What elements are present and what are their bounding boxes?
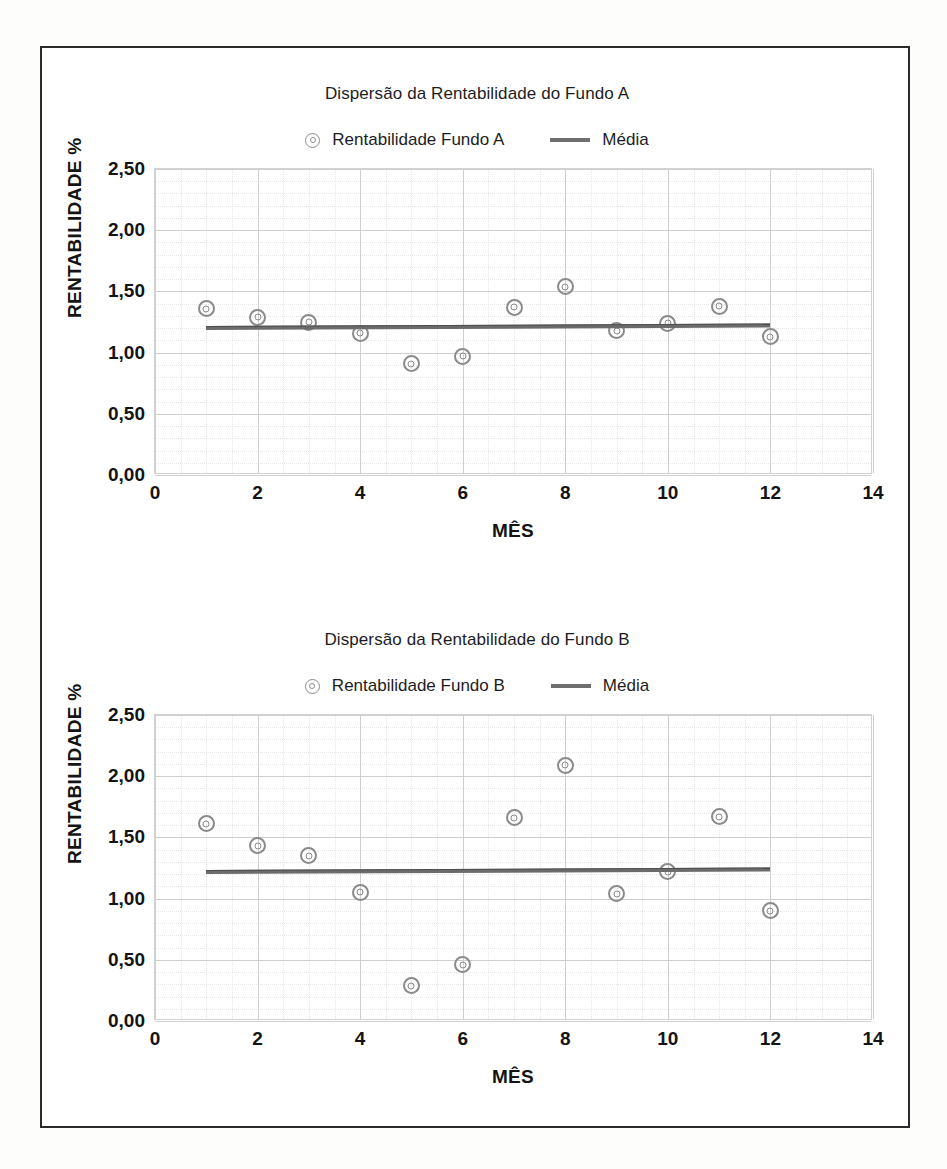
data-point-marker	[711, 808, 728, 825]
gridline-horizontal	[155, 414, 871, 415]
gridline-vertical	[565, 169, 566, 473]
gridline-vertical-minor	[822, 169, 823, 473]
x-tick-label: 4	[355, 482, 366, 504]
gridline-vertical-minor	[745, 169, 746, 473]
figure-fundo-a: Dispersão da Rentabilidade do Fundo A Re…	[42, 48, 912, 558]
legend-entry-rentabilidade-a: Rentabilidade Fundo A	[305, 130, 504, 150]
y-axis-label-b: RENTABILIDADE %	[64, 684, 86, 864]
x-tick-label: 12	[760, 1028, 781, 1050]
line-swatch-icon	[551, 684, 591, 688]
gridline-horizontal	[155, 353, 871, 354]
legend-label-rentabilidade-b: Rentabilidade Fundo B	[332, 676, 505, 696]
gridline-horizontal-minor	[155, 862, 871, 863]
x-tick-label: 0	[150, 482, 161, 504]
chart-legend-a: Rentabilidade Fundo A Média	[42, 130, 912, 150]
data-point-marker	[352, 884, 369, 901]
gridline-horizontal-minor	[155, 1009, 871, 1010]
gridline-horizontal-minor	[155, 451, 871, 452]
gridline-horizontal-minor	[155, 389, 871, 390]
gridline-horizontal-minor	[155, 181, 871, 182]
gridline-vertical-minor	[232, 715, 233, 1019]
y-tick-label: 1,50	[108, 280, 145, 302]
gridline-horizontal-minor	[155, 193, 871, 194]
gridline-vertical	[873, 715, 874, 1019]
gridline-vertical-minor	[591, 715, 592, 1019]
gridline-vertical-minor	[283, 169, 284, 473]
y-axis-label-a: RENTABILIDADE %	[64, 138, 86, 318]
chart-title-a: Dispersão da Rentabilidade do Fundo A	[42, 84, 912, 104]
plot-wrap-b: RENTABILIDADE % 0,000,501,001,502,002,50…	[42, 714, 912, 1104]
legend-label-media-a: Média	[602, 130, 648, 150]
x-tick-label: 10	[657, 482, 678, 504]
gridline-vertical-minor	[514, 169, 515, 473]
gridline-horizontal	[155, 291, 871, 292]
plot-area-a: 0,000,501,001,502,002,5002468101214	[154, 168, 872, 474]
gridline-horizontal-minor	[155, 874, 871, 875]
y-tick-label: 2,00	[108, 219, 145, 241]
gridline-vertical-minor	[591, 169, 592, 473]
gridline-horizontal	[155, 715, 871, 716]
data-point-marker	[403, 977, 420, 994]
circle-marker-icon	[305, 679, 320, 694]
legend-label-media-b: Média	[603, 676, 649, 696]
x-tick-label: 2	[252, 1028, 263, 1050]
x-tick-label: 12	[760, 482, 781, 504]
data-point-marker	[557, 278, 574, 295]
gridline-horizontal-minor	[155, 242, 871, 243]
plot-area-b: 0,000,501,001,502,002,5002468101214	[154, 714, 872, 1020]
gridline-horizontal	[155, 899, 871, 900]
gridline-horizontal-minor	[155, 739, 871, 740]
gridline-horizontal-minor	[155, 377, 871, 378]
gridline-horizontal-minor	[155, 463, 871, 464]
gridline-vertical-minor	[488, 715, 489, 1019]
gridline-vertical-minor	[335, 169, 336, 473]
gridline-vertical-minor	[642, 169, 643, 473]
y-tick-label: 0,50	[108, 403, 145, 425]
data-point-marker	[454, 348, 471, 365]
gridline-vertical-minor	[232, 169, 233, 473]
gridline-horizontal	[155, 475, 871, 476]
legend-entry-media-b: Média	[551, 676, 649, 696]
gridline-horizontal	[155, 1021, 871, 1022]
gridline-vertical	[155, 715, 156, 1019]
gridline-vertical-minor	[181, 169, 182, 473]
data-point-marker	[557, 757, 574, 774]
y-tick-label: 1,50	[108, 826, 145, 848]
gridline-vertical-minor	[335, 715, 336, 1019]
x-axis-label-a: MÊS	[154, 520, 872, 542]
y-tick-label: 1,00	[108, 342, 145, 364]
gridline-vertical-minor	[617, 169, 618, 473]
scanned-page: Dispersão da Rentabilidade do Fundo A Re…	[0, 0, 947, 1169]
gridline-vertical-minor	[796, 715, 797, 1019]
y-tick-label: 2,00	[108, 765, 145, 787]
data-point-marker	[506, 809, 523, 826]
x-tick-label: 8	[560, 1028, 571, 1050]
gridline-vertical-minor	[514, 715, 515, 1019]
gridline-horizontal-minor	[155, 788, 871, 789]
legend-label-rentabilidade-a: Rentabilidade Fundo A	[332, 130, 504, 150]
y-tick-label: 0,50	[108, 949, 145, 971]
x-tick-label: 0	[150, 1028, 161, 1050]
gridline-vertical-minor	[847, 169, 848, 473]
x-tick-label: 4	[355, 1028, 366, 1050]
gridline-vertical-minor	[617, 715, 618, 1019]
gridline-vertical	[770, 169, 771, 473]
gridline-vertical	[770, 715, 771, 1019]
gridline-vertical-minor	[822, 715, 823, 1019]
gridline-vertical-minor	[206, 169, 207, 473]
gridline-vertical	[360, 169, 361, 473]
gridline-horizontal	[155, 776, 871, 777]
gridline-vertical-minor	[181, 715, 182, 1019]
data-point-marker	[249, 309, 266, 326]
gridline-vertical-minor	[386, 169, 387, 473]
gridline-horizontal-minor	[155, 801, 871, 802]
gridline-horizontal-minor	[155, 923, 871, 924]
gridline-horizontal	[155, 960, 871, 961]
gridline-horizontal	[155, 230, 871, 231]
gridline-vertical	[463, 715, 464, 1019]
x-tick-label: 6	[457, 482, 468, 504]
data-point-marker	[762, 328, 779, 345]
gridline-horizontal-minor	[155, 438, 871, 439]
gridline-vertical-minor	[796, 169, 797, 473]
gridline-horizontal-minor	[155, 402, 871, 403]
